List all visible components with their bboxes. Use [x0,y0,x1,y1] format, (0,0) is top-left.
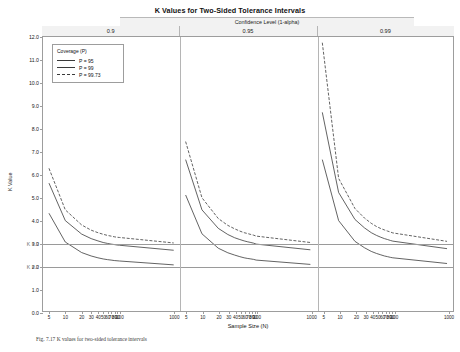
x-axis-tick-label: 1000 [307,315,317,320]
x-axis-tick-mark [392,311,393,314]
x-axis-tick-label: 100 [116,315,124,320]
reference-line-label: K = 2 [13,264,39,270]
y-axis-tick-mark [40,198,43,199]
x-axis-tick-mark [103,311,104,314]
y-axis-tick-label: 8.0 [13,126,39,132]
panel-label-0-99: 0.99 [317,26,454,36]
x-axis-tick-mark [186,311,187,314]
y-axis-tick-mark [40,221,43,222]
x-axis-tick-mark [395,311,396,314]
x-axis-tick-mark [252,311,253,314]
x-axis-tick-label: 5 [322,315,325,320]
x-axis-tick-mark [312,311,313,314]
y-axis-tick-label: 0.0 [13,310,39,316]
y-axis-tick-mark [40,37,43,38]
x-axis-tick-label: 5 [185,315,188,320]
x-axis-tick-mark [373,311,374,314]
x-axis-tick-mark [111,311,112,314]
x-axis-tick-mark [65,311,66,314]
legend-label-p95: P = 95 [79,58,94,64]
x-axis-tick-mark [356,311,357,314]
series-line-p99 [49,183,174,250]
figure-caption: Fig. 7.17 K values for two-sided toleran… [36,336,436,342]
x-axis-tick-mark [386,311,387,314]
y-axis-tick-mark [40,313,43,314]
x-axis-tick-label: 10 [200,315,205,320]
chart-title: K Values for Two-Sided Tolerance Interva… [0,6,460,15]
series-line-p95 [322,160,447,264]
x-axis-tick-mark [382,311,383,314]
series-line-p9973 [186,142,311,243]
panel-header-divider [179,26,180,36]
legend-title: Coverage (P) [57,48,119,54]
y-axis-tick-mark [40,152,43,153]
panel-header-divider [317,26,318,36]
series-line-p99 [322,112,447,248]
legend-item: P = 99.73 [57,71,119,78]
x-axis-tick-mark [249,311,250,314]
x-axis-tick-label: 30 [226,315,231,320]
y-axis-tick-mark [40,129,43,130]
legend-swatch-p9973 [57,74,75,75]
x-axis-tick-mark [229,311,230,314]
series-line-p9973 [49,168,174,243]
x-axis-tick-label: 10 [63,315,68,320]
legend-label-p99: P = 99 [79,65,94,71]
legend: Coverage (P) P = 95 P = 99 P = 99.73 [52,44,124,83]
y-axis-tick-label: 5.0 [13,195,39,201]
legend-swatch-p95 [57,60,75,61]
x-axis-label: Sample Size (N) [42,323,454,329]
x-axis-tick-mark [378,311,379,314]
x-axis-tick-mark [257,311,258,314]
x-axis-tick-label: 1000 [444,315,454,320]
x-axis-tick-mark [115,311,116,314]
x-axis-tick-mark [449,311,450,314]
x-axis-tick-mark [82,311,83,314]
x-axis-tick-mark [241,311,242,314]
y-axis-tick-label: 10.0 [13,80,39,86]
y-axis-tick-mark [40,60,43,61]
series-line-p95 [49,213,174,265]
x-axis-tick-mark [389,311,390,314]
y-axis-tick-mark [40,175,43,176]
x-axis-tick-label: 20 [354,315,359,320]
x-axis-tick-label: 100 [253,315,261,320]
y-axis-tick-label: 12.0 [13,34,39,40]
x-axis-tick-mark [203,311,204,314]
legend-item: P = 99 [57,64,119,71]
x-axis-tick-label: 10 [338,315,343,320]
series-line-p95 [186,195,311,264]
x-axis-tick-mark [49,311,50,314]
x-axis-tick-label: 5 [48,315,51,320]
x-axis-tick-mark [117,311,118,314]
x-axis-tick-mark [120,311,121,314]
x-axis-tick-mark [236,311,237,314]
y-axis-tick-label: 9.0 [13,103,39,109]
x-axis-tick-mark [91,311,92,314]
y-axis-tick-mark [40,106,43,107]
chart-page: K Values for Two-Sided Tolerance Interva… [0,0,460,352]
x-axis-tick-label: 30 [363,315,368,320]
y-axis-tick-label: 7.0 [13,149,39,155]
y-axis-tick-label: 4.0 [13,218,39,224]
x-axis-tick-mark [255,311,256,314]
y-axis-tick-label: 6.0 [13,172,39,178]
panel-label-0-9: 0.9 [42,26,179,36]
reference-line [43,267,453,268]
x-axis-tick-label: 20 [79,315,84,320]
x-axis-tick-label: 30 [89,315,94,320]
x-axis-tick-mark [366,311,367,314]
reference-line [43,244,453,245]
y-axis-tick-mark [40,83,43,84]
legend-swatch-p99 [57,67,75,68]
x-axis-tick-mark [98,311,99,314]
x-axis-tick-mark [245,311,246,314]
y-axis-tick-mark [40,290,43,291]
x-axis-tick-mark [340,311,341,314]
panel-divider [180,37,181,311]
legend-item: P = 95 [57,57,119,64]
y-axis-tick-label: 11.0 [13,57,39,63]
x-axis-tick-label: 1000 [169,315,179,320]
series-line-p9973 [322,43,447,242]
y-axis-tick-label: 1.0 [13,287,39,293]
